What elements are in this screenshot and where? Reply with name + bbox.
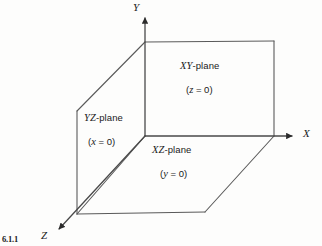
yz-plane-equation: (x = 0) [88, 137, 115, 148]
axis-label-y: Y [133, 2, 139, 13]
xy-plane-label-plain: -plane [192, 60, 219, 71]
yz-plane-label-italic: YZ [84, 112, 96, 123]
edge-xz-bottom [77, 212, 205, 214]
xz-plane-equation: (y = 0) [160, 169, 187, 180]
xz-plane-label: XZ-plane [152, 145, 191, 156]
yz-plane-label: YZ-plane [84, 113, 123, 124]
box-edges [77, 41, 274, 214]
coordinate-planes-diagram [0, 0, 322, 246]
axis-lines [59, 18, 292, 229]
edge-yz-top-diagonal [77, 42, 145, 111]
axis-label-z: Z [41, 230, 47, 241]
xz-eq-rest: = 0) [168, 168, 187, 179]
edge-xy-top [145, 41, 274, 42]
axis-line-z [59, 136, 145, 229]
edge-xz-right-diagonal [205, 136, 274, 212]
xy-plane-equation: (z = 0) [186, 85, 213, 96]
figure-caption: 6.1.1 [2, 234, 18, 244]
xz-plane-label-italic: XZ [152, 144, 164, 155]
xy-plane-label-italic: XY [180, 60, 192, 71]
xz-plane-label-plain: -plane [164, 144, 191, 155]
xy-plane-label: XY-plane [180, 61, 219, 72]
axis-label-x: X [303, 128, 310, 139]
xy-eq-rest: = 0) [193, 84, 212, 95]
figure-container: Y X Z XY-plane (z = 0) YZ-plane (x = 0) … [0, 0, 322, 246]
yz-eq-rest: = 0) [96, 136, 115, 147]
yz-plane-label-plain: -plane [96, 112, 123, 123]
